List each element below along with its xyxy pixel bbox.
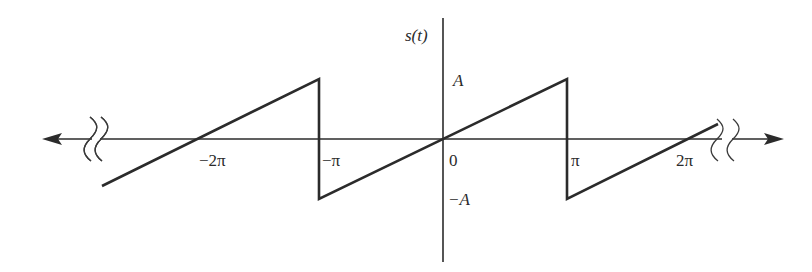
x-tick-label-pi: π [571, 152, 580, 169]
y-axis-label: s(t) [405, 27, 428, 44]
y-tick-label-neg-A: −A [448, 191, 470, 208]
x-tick-label-zero: 0 [449, 152, 458, 169]
x-tick-label-2pi: 2π [676, 152, 693, 169]
x-tick-label-neg-2pi: −2π [199, 152, 226, 169]
y-tick-label-A: A [453, 72, 463, 89]
x-tick-label-neg-pi: −π [322, 152, 340, 169]
